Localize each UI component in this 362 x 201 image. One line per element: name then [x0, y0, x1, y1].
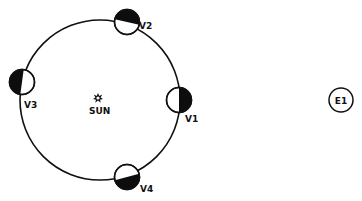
venus-phases-diagram: SUN V1 V2 V3 V4 E1 — [0, 0, 362, 201]
planet-v2-label: V2 — [139, 21, 152, 31]
planet-v4 — [115, 165, 140, 190]
sun-icon — [93, 93, 103, 103]
sun-label: SUN — [89, 106, 110, 116]
planet-v4-label: V4 — [140, 184, 153, 194]
planet-v3 — [9, 69, 34, 94]
earth-label: E1 — [335, 96, 347, 106]
planet-v1 — [167, 88, 192, 113]
planet-v1-label: V1 — [185, 114, 198, 124]
planet-v2 — [115, 10, 140, 35]
planet-v3-label: V3 — [24, 100, 37, 110]
